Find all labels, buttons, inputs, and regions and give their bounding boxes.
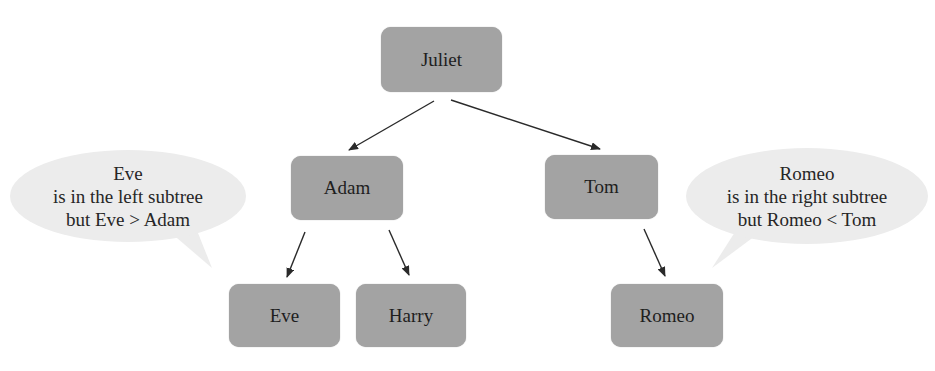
right-callout-line2: is in the right subtree xyxy=(727,185,887,208)
left-callout-line2: is in the left subtree xyxy=(53,185,203,208)
right-callout-line3: but Romeo < Tom xyxy=(738,208,876,231)
right-callout: Romeo is in the right subtree but Romeo … xyxy=(686,148,928,244)
edge-juliet-tom xyxy=(451,100,600,149)
edge-adam-harry xyxy=(389,230,409,275)
edge-adam-eve xyxy=(287,232,305,277)
node-tom: Tom xyxy=(545,155,658,219)
node-juliet: Juliet xyxy=(381,27,502,92)
node-adam: Adam xyxy=(291,156,403,220)
edge-tom-romeo xyxy=(644,229,665,276)
node-eve: Eve xyxy=(229,284,340,347)
node-harry: Harry xyxy=(356,284,466,347)
left-callout-line1: Eve xyxy=(113,162,143,185)
left-callout-line3: but Eve > Adam xyxy=(66,208,190,231)
right-callout-line1: Romeo xyxy=(780,162,835,185)
left-callout: Eve is in the left subtree but Eve > Ada… xyxy=(10,150,246,242)
edge-juliet-adam xyxy=(349,101,434,150)
node-romeo: Romeo xyxy=(611,284,723,347)
